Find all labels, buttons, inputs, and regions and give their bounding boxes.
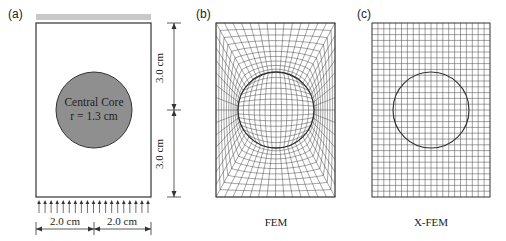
- panel-c-label: (c): [357, 7, 371, 21]
- panel-a: (a) Central Core r = 1.3 cm 3.0 cm 3.0 c…: [8, 7, 181, 235]
- panel-a-label: (a): [8, 7, 23, 21]
- xfem-grid: [372, 23, 490, 197]
- dimension-left-label: 2.0 cm: [50, 215, 80, 227]
- fem-mesh: [216, 23, 335, 197]
- figure: (a) Central Core r = 1.3 cm 3.0 cm 3.0 c…: [0, 0, 506, 241]
- dimension-right-label: 2.0 cm: [107, 215, 137, 227]
- core-label: Central Core: [64, 96, 123, 108]
- load-arrows: [37, 200, 150, 213]
- fem-caption: FEM: [265, 216, 288, 228]
- dimension-top-label: 3.0 cm: [153, 53, 165, 83]
- xfem-caption: X-FEM: [414, 216, 448, 228]
- panel-c: (c) X-FEM: [357, 7, 490, 228]
- panel-b: (b) FEM: [196, 7, 335, 228]
- vertical-dimension: [167, 23, 181, 197]
- panel-b-label: (b): [196, 7, 211, 21]
- dimension-bottom-label: 3.0 cm: [153, 139, 165, 169]
- top-fixed-boundary: [36, 14, 151, 20]
- core-radius: r = 1.3 cm: [70, 110, 117, 122]
